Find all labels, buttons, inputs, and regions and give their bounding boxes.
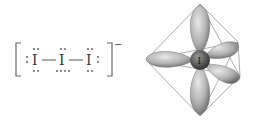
lobe-left bbox=[146, 51, 194, 67]
iodine-atom-center: I bbox=[59, 52, 65, 68]
lobe-top bbox=[190, 5, 210, 55]
charge-label: − bbox=[114, 39, 122, 50]
iodine-atom-left: I bbox=[32, 52, 38, 68]
right-bracket bbox=[107, 43, 112, 76]
lobe-right-upper bbox=[204, 42, 239, 59]
triiodide-lewis-structure: − I I I bbox=[0, 0, 130, 121]
iodine-atom-right: I bbox=[86, 52, 92, 68]
lobe-bottom bbox=[190, 65, 210, 115]
left-bracket bbox=[16, 43, 21, 76]
central-atom-label: I bbox=[198, 56, 202, 66]
octahedral-orbital-diagram: I bbox=[130, 0, 255, 121]
